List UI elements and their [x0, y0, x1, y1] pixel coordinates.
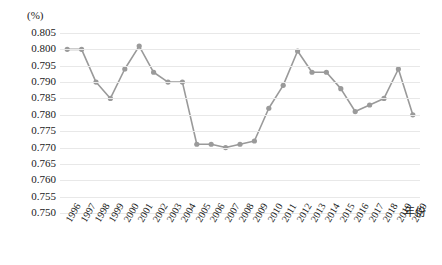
x-axis-title: 年份	[404, 203, 426, 219]
line-chart: (%) 0.8050.8000.7950.7900.7850.7800.7750…	[0, 0, 442, 265]
x-axis-tick-labels: 1996199719981999200020012002200320042005…	[0, 0, 442, 265]
